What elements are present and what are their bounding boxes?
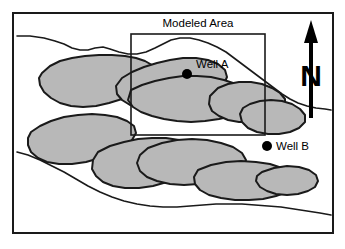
well-label-well-a: Well A [196,58,229,70]
north-letter-label: N [300,59,322,92]
sand-body-lobe [240,100,305,134]
well-marker-well-a[interactable] [182,69,192,79]
well-label-well-b: Well B [276,140,309,152]
sand-body-lobe [256,166,318,195]
map-canvas: Modeled Area Well AWell B N [0,0,345,249]
map-figure: Modeled Area Well AWell B N [0,0,345,249]
modeled-area-label: Modeled Area [163,17,235,29]
north-arrow-head [304,20,318,43]
north-arrow: N [300,20,322,118]
well-marker-well-b[interactable] [262,141,272,151]
sand-bodies-group [28,55,318,200]
